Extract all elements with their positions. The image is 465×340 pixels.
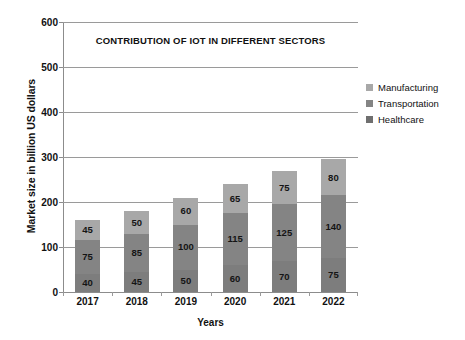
x-axis-tick-label: 2019 <box>161 296 211 307</box>
y-axis-tick-label: 600 <box>32 17 58 28</box>
bar-value-label: 75 <box>82 252 93 262</box>
bar-segment-healthcare[interactable]: 60 <box>223 265 248 292</box>
bar-stack[interactable]: 407545 <box>75 220 100 292</box>
bar-value-label: 75 <box>328 270 339 280</box>
bar-segment-healthcare[interactable]: 45 <box>124 272 149 292</box>
x-axis-tick-label: 2018 <box>112 296 162 307</box>
bar-value-label: 85 <box>131 248 142 258</box>
bar-segment-manufacturing[interactable]: 60 <box>173 198 198 225</box>
y-axis-tick-label: 100 <box>32 242 58 253</box>
y-axis-tick-label: 300 <box>32 152 58 163</box>
bar-value-label: 40 <box>82 278 93 288</box>
bar-value-label: 140 <box>325 222 341 232</box>
bar-segment-transportation[interactable]: 75 <box>75 240 100 274</box>
bar-stack[interactable]: 5010060 <box>173 198 198 293</box>
bar-value-label: 75 <box>279 183 290 193</box>
bar-stack[interactable]: 6011565 <box>223 184 248 292</box>
x-axis-title: Years <box>63 317 358 328</box>
bar-segment-healthcare[interactable]: 40 <box>75 274 100 292</box>
x-axis-tick-label: 2020 <box>210 296 260 307</box>
bar-value-label: 60 <box>230 274 241 284</box>
bar-stack[interactable]: 7514080 <box>321 159 346 292</box>
bar-value-label: 125 <box>276 228 292 238</box>
stacked-bar-chart: Market size in billion US dollars 010020… <box>0 0 465 340</box>
x-axis-tick-label: 2017 <box>63 296 113 307</box>
legend-label: Manufacturing <box>378 82 438 93</box>
plot-area: 4075454585505010060601156570125757514080 <box>63 22 358 292</box>
bar-value-label: 45 <box>131 277 142 287</box>
legend-swatch-icon <box>366 100 373 107</box>
bar-value-label: 45 <box>82 225 93 235</box>
bar-value-label: 70 <box>279 272 290 282</box>
bar-segment-transportation[interactable]: 100 <box>173 225 198 270</box>
bar-value-label: 50 <box>131 218 142 228</box>
bar-segment-manufacturing[interactable]: 75 <box>272 171 297 205</box>
y-axis-tick-labels: 0100200300400500600 <box>30 22 58 292</box>
y-axis-tick-label: 200 <box>32 197 58 208</box>
legend-item[interactable]: Healthcare <box>366 112 439 127</box>
bar-segment-manufacturing[interactable]: 45 <box>75 220 100 240</box>
bar-value-label: 80 <box>328 173 339 183</box>
y-axis-tick-label: 0 <box>32 287 58 298</box>
bar-stack[interactable]: 458550 <box>124 211 149 292</box>
bar-segment-manufacturing[interactable]: 50 <box>124 211 149 234</box>
chart-legend: ManufacturingTransportationHealthcare <box>366 80 439 128</box>
bar-segment-transportation[interactable]: 115 <box>223 213 248 265</box>
bar-segment-healthcare[interactable]: 70 <box>272 261 297 293</box>
bar-segment-transportation[interactable]: 125 <box>272 204 297 260</box>
bar-segment-manufacturing[interactable]: 80 <box>321 159 346 195</box>
x-axis-tick-label: 2022 <box>308 296 358 307</box>
y-axis-tick-label: 400 <box>32 107 58 118</box>
x-axis-tick-label: 2021 <box>259 296 309 307</box>
bar-value-label: 65 <box>230 194 241 204</box>
bar-value-label: 50 <box>181 276 192 286</box>
legend-label: Transportation <box>378 98 439 109</box>
bar-value-label: 100 <box>178 242 194 252</box>
bar-segment-transportation[interactable]: 85 <box>124 234 149 272</box>
y-axis-tick-label: 500 <box>32 62 58 73</box>
legend-swatch-icon <box>366 116 373 123</box>
bars-layer: 4075454585505010060601156570125757514080 <box>63 22 358 292</box>
bar-segment-manufacturing[interactable]: 65 <box>223 184 248 213</box>
legend-swatch-icon <box>366 84 373 91</box>
bar-segment-healthcare[interactable]: 50 <box>173 270 198 293</box>
legend-item[interactable]: Manufacturing <box>366 80 439 95</box>
bar-value-label: 115 <box>227 234 242 244</box>
legend-item[interactable]: Transportation <box>366 96 439 111</box>
chart-title: CONTRIBUTION OF IOT IN DIFFERENT SECTORS <box>63 35 358 46</box>
bar-value-label: 60 <box>181 206 192 216</box>
bar-segment-healthcare[interactable]: 75 <box>321 258 346 292</box>
legend-label: Healthcare <box>378 114 424 125</box>
bar-segment-transportation[interactable]: 140 <box>321 195 346 258</box>
bar-stack[interactable]: 7012575 <box>272 171 297 293</box>
